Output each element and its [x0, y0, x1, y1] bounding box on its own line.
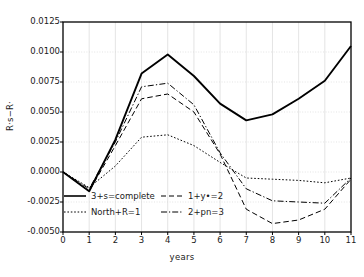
legend-swatch-dashdot — [160, 208, 184, 216]
series-line-3 — [63, 83, 351, 203]
legend-label-1: 1+y•=2 — [188, 192, 223, 201]
legend-item-1: 1+y•=2 — [160, 188, 247, 204]
plot-area — [0, 0, 364, 277]
legend-swatch-dashed — [160, 192, 184, 200]
legend-swatch-solid — [63, 192, 87, 200]
legend-item-2: North+R=1 — [63, 204, 160, 220]
legend-label-3: 2+pn=3 — [188, 208, 224, 217]
chart-legend: 3+s=complete 1+y•=2 North+R=1 2+pn=3 — [63, 188, 247, 220]
legend-label-0: 3+s=complete — [91, 192, 155, 201]
series-line-1 — [63, 135, 351, 188]
legend-item-0: 3+s=complete — [63, 188, 160, 204]
x-axis-label: years — [0, 252, 364, 262]
legend-label-2: North+R=1 — [91, 208, 140, 217]
legend-swatch-dotted — [63, 208, 87, 216]
chart-figure: R·s−R· 0.01250.01000.00750.00500.00250.0… — [0, 0, 364, 277]
series-line-0 — [63, 46, 351, 191]
legend-item-3: 2+pn=3 — [160, 204, 247, 220]
